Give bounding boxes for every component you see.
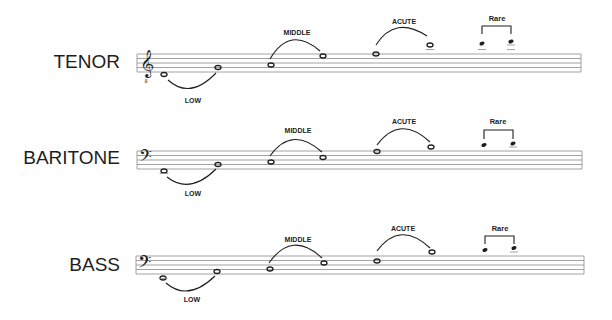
note-middle-end: [320, 156, 326, 160]
note-acute-end: [427, 43, 433, 47]
arc-acute: [377, 129, 430, 145]
staff-tenor: 𝄞 8 LOW MIDDLE ACUTE Rare: [137, 14, 581, 104]
range-label-acute: ACUTE: [392, 18, 416, 25]
range-label-middle: MIDDLE: [285, 127, 312, 134]
note-rare-start: [479, 41, 485, 46]
arc-acute: [377, 235, 430, 251]
note-low-start: [160, 276, 166, 280]
staff-bass: 𝄢 LOW MIDDLE ACUTE Rare: [136, 224, 584, 303]
bracket-rare: [485, 236, 514, 244]
treble-clef-icon: 𝄞: [140, 49, 154, 78]
bass-clef-icon: 𝄢: [138, 252, 152, 276]
note-acute-end: [428, 145, 434, 149]
staff-lines: [137, 151, 582, 169]
bracket-rare: [484, 130, 513, 139]
octave-8-marker: 8: [145, 78, 148, 84]
range-label-rare: Rare: [492, 224, 509, 233]
note-low-start: [161, 73, 167, 77]
note-acute-start: [374, 150, 380, 154]
range-label-low: LOW: [185, 97, 202, 104]
range-label-acute: ACUTE: [392, 118, 416, 125]
staff-lines: [137, 54, 581, 72]
bracket-rare: [482, 26, 511, 34]
arc-acute: [376, 27, 427, 45]
range-label-acute: ACUTE: [391, 225, 415, 232]
staff-baritone: 𝄢 LOW MIDDLE ACUTE Rare: [137, 117, 582, 197]
range-label-middle: MIDDLE: [284, 29, 311, 36]
note-acute-end: [429, 250, 435, 254]
staff-lines: [136, 256, 584, 274]
arc-low: [168, 73, 216, 89]
note-low-end: [214, 270, 220, 274]
note-middle-start: [268, 63, 274, 67]
note-middle-end: [320, 54, 326, 58]
arc-low: [166, 276, 215, 291]
range-label-middle: MIDDLE: [285, 236, 312, 243]
range-label-low: LOW: [185, 190, 202, 197]
note-middle-end: [321, 261, 327, 265]
note-rare-start: [481, 142, 487, 147]
note-middle-start: [268, 160, 274, 164]
range-label-rare: Rare: [489, 14, 506, 23]
note-rare-end: [508, 39, 514, 44]
note-middle-start: [267, 267, 273, 271]
range-label-low: LOW: [184, 296, 201, 303]
arc-low: [167, 169, 216, 184]
note-rare-end: [511, 245, 517, 250]
range-label-rare: Rare: [490, 117, 507, 126]
note-low-start: [161, 169, 167, 173]
arc-middle: [270, 139, 322, 156]
arc-middle: [270, 40, 320, 59]
bass-clef-icon: 𝄢: [139, 146, 152, 170]
voice-range-diagram: 𝄞 8 LOW MIDDLE ACUTE Rare: [0, 0, 612, 320]
note-rare-start: [482, 247, 488, 252]
note-acute-start: [374, 259, 380, 263]
note-rare-end: [510, 141, 516, 146]
